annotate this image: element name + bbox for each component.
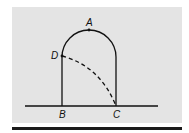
bottom-rule xyxy=(12,127,182,130)
dashed-arc-d-to-c xyxy=(62,56,116,106)
point-d xyxy=(61,55,64,58)
label-b: B xyxy=(59,110,66,120)
point-a xyxy=(88,29,91,32)
geometry-figure xyxy=(0,0,189,133)
label-c: C xyxy=(113,110,120,120)
arch-outline xyxy=(62,30,116,106)
label-d: D xyxy=(51,51,58,61)
label-a: A xyxy=(86,18,93,28)
